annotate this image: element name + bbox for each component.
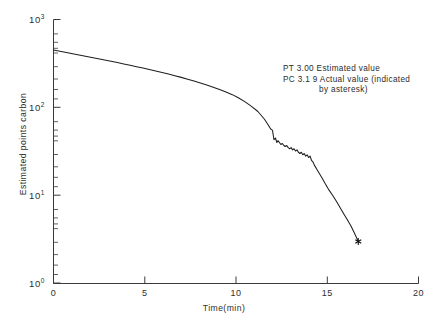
y-tick-label-100: 102 xyxy=(29,101,45,113)
x-axis-tick-labels: 0 5 10 15 20 xyxy=(51,288,424,298)
y-axis-tick-labels: 103 102 101 100 xyxy=(29,13,45,289)
chart-annotation-block: PT 3.00 Estimated value PC 3.1 9 Actual … xyxy=(283,64,410,96)
x-tick-label-0: 0 xyxy=(51,288,57,298)
actual-value-asterisk-icon xyxy=(355,238,361,245)
y-tick-label-1: 100 xyxy=(29,277,45,289)
annotation-line-pt: PT 3.00 Estimated value xyxy=(283,64,410,75)
x-tick-label-15: 15 xyxy=(322,288,333,298)
annotation-line-asterisk-note: by asteresk) xyxy=(283,85,410,96)
x-tick-label-10: 10 xyxy=(230,288,241,298)
x-tick-label-20: 20 xyxy=(413,288,424,298)
x-axis-title: Time(min) xyxy=(0,303,448,313)
x-axis-ticks xyxy=(54,277,419,284)
y-axis-major-ticks xyxy=(54,20,61,284)
chart-plot-area: 103 102 101 100 0 5 10 15 20 xyxy=(0,0,448,326)
y-tick-label-10: 101 xyxy=(29,189,45,201)
y-axis-title: Estimated points carbon xyxy=(18,74,28,214)
y-axis-minor-ticks xyxy=(54,34,59,275)
chart-figure: 103 102 101 100 0 5 10 15 20 Time(min) E… xyxy=(0,0,448,326)
y-tick-label-1000: 103 xyxy=(29,13,45,25)
x-tick-label-5: 5 xyxy=(142,288,148,298)
annotation-line-pc: PC 3.1 9 Actual value (indicated xyxy=(283,75,410,86)
